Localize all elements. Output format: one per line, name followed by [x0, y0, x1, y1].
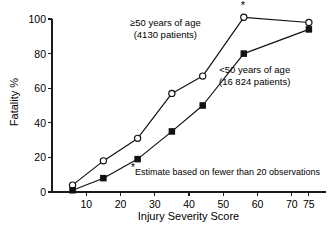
x-axis-title: Injury Severity Score: [52, 210, 325, 222]
x-tick-label: 20: [107, 199, 135, 210]
footnote: *Estimate based on fewer than 20 observa…: [131, 167, 320, 177]
older-group-annotation: ≥50 years of age (4130 patients): [130, 17, 201, 40]
data-point-open-circle: [241, 14, 247, 20]
x-tick-label: 60: [244, 199, 272, 210]
x-tick-label: 75: [295, 199, 323, 210]
y-tick-label: 80: [4, 49, 46, 60]
fatality-vs-injury-severity-chart: 020406080100 1020304050607075 Fatality %…: [0, 0, 335, 232]
x-axis-ticks: [86, 192, 309, 196]
data-point-filled-square: [101, 175, 106, 180]
data-point-open-circle: [169, 90, 175, 96]
x-tick-label: 30: [141, 199, 169, 210]
data-point-open-circle: [306, 19, 312, 25]
footnote-text: Estimate based on fewer than 20 observat…: [135, 167, 320, 177]
y-tick-label: 20: [4, 152, 46, 163]
data-point-filled-square: [241, 51, 246, 56]
data-point-filled-square: [70, 188, 75, 193]
data-point-open-circle: [135, 135, 141, 141]
x-tick-label: 10: [72, 199, 100, 210]
older-group-annotation-line1: ≥50 years of age: [130, 17, 201, 29]
data-point-open-circle: [100, 158, 106, 164]
data-point-open-circle: [200, 73, 206, 79]
data-point-filled-square: [200, 103, 205, 108]
data-point-filled-square: [135, 156, 140, 161]
y-tick-label: 100: [4, 14, 46, 25]
peak-estimate-asterisk: *: [241, 0, 245, 11]
y-axis-title: Fatality %: [8, 62, 20, 142]
data-point-filled-square: [306, 27, 311, 32]
younger-group-annotation-line1: <50 years of age: [219, 64, 290, 76]
series-markers-older: [69, 14, 312, 188]
y-tick-label: 0: [4, 187, 46, 198]
x-tick-label: 40: [175, 199, 203, 210]
younger-group-annotation: <50 years of age (16 824 patients): [219, 64, 290, 87]
older-group-annotation-line2: (4130 patients): [130, 29, 201, 41]
data-point-filled-square: [169, 129, 174, 134]
y-axis-ticks: [48, 19, 52, 192]
x-tick-label: 50: [209, 199, 237, 210]
younger-group-annotation-line2: (16 824 patients): [219, 76, 290, 88]
